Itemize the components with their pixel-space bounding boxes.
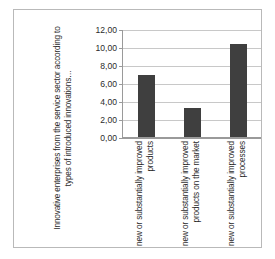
category-label-text: new or substantially improved products o… bbox=[180, 141, 202, 257]
y-axis-tick-label: 10,00 bbox=[95, 43, 117, 53]
y-axis-tick-label: 12,00 bbox=[95, 25, 117, 35]
y-axis-tick bbox=[119, 84, 123, 85]
category-label: new or substantially improved products o… bbox=[168, 141, 214, 257]
y-axis-tick-label: 2,00 bbox=[100, 115, 117, 125]
category-label: new or substantially improved processes bbox=[214, 141, 260, 257]
category-label: new or substantially improved products bbox=[122, 141, 168, 257]
y-axis-title: Innovative enterprises from the service … bbox=[32, 0, 94, 22]
y-axis-tick bbox=[119, 48, 123, 49]
y-axis-title-text: Innovative enterprises from the service … bbox=[32, 22, 94, 234]
y-axis-tick bbox=[119, 30, 123, 31]
y-axis-tick bbox=[119, 66, 123, 67]
y-axis-tick-label: 4,00 bbox=[100, 97, 117, 107]
y-axis-tick bbox=[119, 120, 123, 121]
category-label-text: new or substantially improved processes bbox=[226, 141, 248, 257]
y-axis-tick-label: 8,00 bbox=[100, 61, 117, 71]
chart-frame: Innovative enterprises from the service … bbox=[13, 9, 262, 248]
y-axis-tick bbox=[119, 138, 123, 139]
y-axis-tick-label: 6,00 bbox=[100, 79, 117, 89]
category-axis-labels: new or substantially improved productsne… bbox=[109, 141, 261, 257]
category-label-text: new or substantially improved products bbox=[134, 141, 156, 257]
y-axis-tick bbox=[119, 102, 123, 103]
